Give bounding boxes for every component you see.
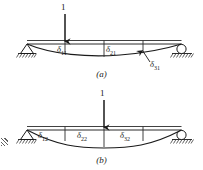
roller-support-a (177, 44, 186, 53)
left-support-ground-hatch-b (17, 140, 37, 144)
panel-a-caption: (a) (0, 69, 203, 79)
label-delta-12: δ12 (38, 131, 48, 142)
label-delta-11: δ11 (57, 45, 67, 56)
pin-support-b (21, 130, 34, 140)
panel-b: 1 δ12 δ22 δ32 (b) (0, 85, 203, 170)
right-support-ground-hatch-a (171, 54, 194, 58)
label-delta-21: δ21 (106, 45, 116, 56)
label-delta-32: δ32 (120, 131, 130, 142)
unit-load-label-a: 1 (61, 3, 66, 12)
right-support-ground-hatch-b (171, 140, 194, 144)
page-edge-artifact (1, 138, 8, 146)
unit-load-label-b: 1 (100, 89, 105, 98)
beam-deflection-figure: 1 δ11 δ21 δ31 (a) (0, 0, 203, 170)
left-support-ground-hatch-a (17, 54, 37, 58)
panel-b-caption: (b) (0, 155, 203, 165)
label-delta-22: δ22 (77, 131, 87, 142)
panel-a: 1 δ11 δ21 δ31 (a) (0, 0, 203, 85)
